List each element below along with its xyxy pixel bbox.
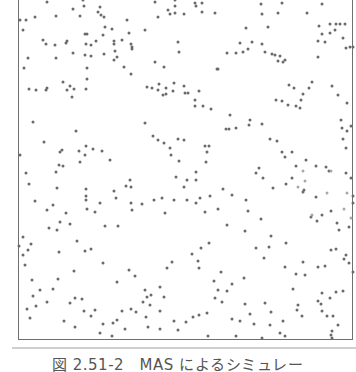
agent-dot	[340, 119, 343, 122]
agent-dot	[154, 1, 157, 4]
agent-dot	[263, 257, 266, 260]
agent-dot	[235, 127, 238, 130]
agent-dot	[171, 261, 174, 264]
agent-dot	[22, 29, 25, 32]
agent-dot	[85, 199, 88, 202]
agent-dot	[52, 204, 55, 207]
agent-dot	[78, 150, 81, 153]
agent-dot	[145, 316, 148, 319]
agent-dot	[315, 196, 318, 199]
agent-dot	[25, 172, 28, 175]
agent-dot	[130, 186, 133, 189]
agent-dot	[102, 323, 105, 326]
agent-dot	[85, 195, 88, 198]
agent-dot	[226, 224, 229, 227]
agent-dot	[317, 56, 320, 59]
agent-dot	[183, 186, 186, 189]
agent-dot	[147, 326, 150, 329]
agent-dot	[261, 337, 264, 340]
agent-dot	[48, 227, 51, 230]
agent-dot	[45, 43, 48, 46]
agent-dot	[35, 305, 38, 308]
agent-dot	[102, 34, 105, 37]
agent-dot	[277, 60, 280, 63]
agent-dot	[163, 142, 166, 145]
agent-dot	[30, 243, 33, 246]
agent-dot	[128, 32, 131, 35]
agent-dot	[243, 277, 246, 280]
agent-dot	[129, 179, 132, 182]
agent-dot	[84, 154, 87, 157]
agent-dot	[159, 286, 162, 289]
agent-dot	[352, 271, 355, 274]
agent-dot	[270, 235, 273, 238]
agent-dot	[348, 262, 351, 265]
agent-dot	[352, 202, 355, 205]
agent-dot	[261, 13, 264, 16]
agent-dot	[315, 165, 318, 168]
agent-dot	[214, 297, 217, 300]
agent-dot	[320, 303, 323, 306]
agent-dot	[117, 225, 120, 228]
agent-dot	[113, 190, 116, 193]
agent-dot	[331, 330, 334, 333]
agent-dot	[146, 296, 149, 299]
agent-dot	[167, 9, 170, 12]
agent-dot	[126, 19, 129, 22]
agent-dot	[345, 172, 348, 175]
agent-dot	[304, 274, 307, 277]
agent-dot	[220, 271, 223, 274]
agent-dot	[348, 226, 351, 229]
agent-dot	[253, 323, 256, 326]
agent-dot	[217, 208, 220, 211]
agent-dot	[346, 192, 349, 195]
agent-dot	[291, 177, 294, 180]
agent-dot	[282, 320, 285, 323]
agent-dot	[144, 29, 147, 32]
agent-dot	[124, 328, 127, 331]
agent-dot	[46, 209, 49, 212]
agent-dot	[123, 66, 126, 69]
agent-dot	[206, 151, 209, 154]
agent-dot	[116, 56, 119, 59]
agent-dot	[335, 291, 338, 294]
agent-dot	[90, 55, 93, 58]
agent-dot	[103, 53, 106, 56]
agent-dot	[336, 222, 339, 225]
agent-dot	[285, 183, 288, 186]
agent-dot	[157, 89, 160, 92]
agent-dot	[249, 119, 252, 122]
agent-dot	[165, 87, 168, 90]
agent-dot	[321, 214, 324, 217]
agent-dot	[83, 310, 86, 313]
agent-dot	[342, 138, 345, 141]
agent-dot	[198, 267, 201, 270]
agent-dot	[226, 290, 229, 293]
agent-dot	[261, 123, 264, 126]
agent-dot	[317, 40, 320, 43]
agent-dot	[52, 288, 55, 291]
agent-dot	[59, 151, 62, 154]
agent-dot	[324, 41, 327, 44]
agent-dot	[209, 195, 212, 198]
agent-dot	[272, 187, 275, 190]
agent-dot	[24, 264, 27, 267]
agent-dot	[192, 316, 195, 319]
agent-dot	[350, 177, 353, 180]
agent-dot	[56, 187, 59, 190]
agent-dot	[258, 167, 261, 170]
agent-dot	[267, 26, 270, 29]
agent-dot	[206, 312, 209, 315]
agent-dot	[59, 221, 62, 224]
agent-dot	[35, 89, 38, 92]
agent-dot	[165, 93, 168, 96]
agent-dot	[197, 260, 200, 263]
agent-dot	[153, 199, 156, 202]
agent-dot	[85, 43, 88, 46]
agent-dot	[235, 335, 238, 338]
agent-dot	[214, 12, 217, 15]
agent-dot	[175, 176, 178, 179]
agent-dot	[69, 85, 72, 88]
agent-dot	[239, 320, 242, 323]
agent-dot	[213, 280, 216, 283]
